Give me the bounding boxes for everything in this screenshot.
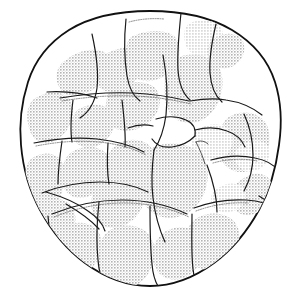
- turtle-carapace-diagram: [0, 0, 300, 300]
- figure-root: [0, 0, 300, 300]
- shade-patch-peripheral-lower-right: [185, 213, 239, 269]
